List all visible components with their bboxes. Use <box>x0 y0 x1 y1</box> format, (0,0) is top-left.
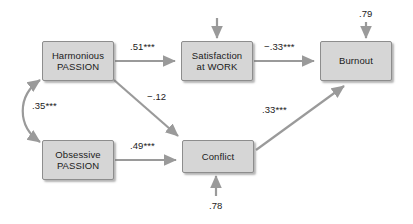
node-burnout[interactable]: Burnout <box>320 41 392 81</box>
node-conflict-label: Conflict <box>202 151 234 163</box>
node-satisfaction-at-work[interactable]: Satisfaction at WORK <box>181 41 253 81</box>
node-burnout-label: Burnout <box>339 55 373 67</box>
arrow-harmonious-obsessive-covariance <box>23 80 40 142</box>
node-harmonious-passion-label: Harmonious PASSION <box>52 50 104 73</box>
path-arrows-layer <box>0 0 413 224</box>
residual-label-burnout: .79 <box>359 9 372 19</box>
node-satisfaction-at-work-label: Satisfaction at WORK <box>192 50 242 73</box>
node-obsessive-passion-label: Obsessive PASSION <box>55 149 100 172</box>
node-obsessive-passion[interactable]: Obsessive PASSION <box>42 140 114 180</box>
path-label-obsessive-to-conflict: .49*** <box>130 141 155 151</box>
path-label-harmonious-obsessive-covariance: .35*** <box>32 101 57 111</box>
path-label-conflict-to-burnout: .33*** <box>262 105 287 115</box>
path-label-harmonious-to-satisfaction: .51*** <box>130 42 155 52</box>
node-harmonious-passion[interactable]: Harmonious PASSION <box>42 41 114 81</box>
arrow-conflict-to-burnout <box>256 86 344 150</box>
arrow-harmonious-to-conflict <box>114 80 178 136</box>
residual-label-conflict: .78 <box>209 201 222 211</box>
node-conflict[interactable]: Conflict <box>182 140 254 173</box>
path-diagram: Harmonious PASSION Satisfaction at WORK … <box>0 0 413 224</box>
path-label-satisfaction-to-burnout: −.33*** <box>264 42 295 52</box>
path-label-harmonious-to-conflict: −.12 <box>147 92 166 102</box>
